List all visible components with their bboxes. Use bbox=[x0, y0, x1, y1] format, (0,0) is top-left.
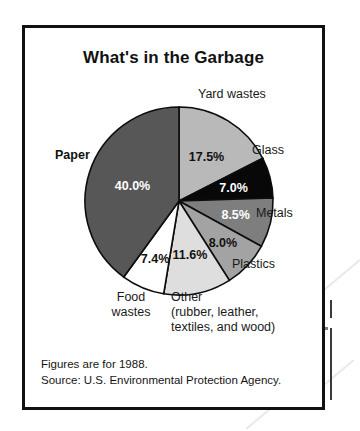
pie-label-food-wastes-line1: Food bbox=[104, 290, 158, 305]
pie-label-other-line1: Other bbox=[171, 290, 275, 305]
pie-label-other: Other (rubber, leather, textiles, and wo… bbox=[171, 290, 275, 335]
pie-label-glass: Glass bbox=[252, 143, 284, 158]
footnote-line: Figures are for 1988. bbox=[41, 356, 281, 372]
pie-label-food-wastes: Food wastes bbox=[104, 290, 158, 320]
pie-label-yard-wastes: Yard wastes bbox=[198, 87, 266, 102]
pie-slice-value: 7.4% bbox=[141, 252, 170, 266]
pie-slice-value: 40.0% bbox=[115, 179, 150, 193]
pie-label-plastics: Plastics bbox=[232, 257, 275, 272]
pie-slice-value: 8.0% bbox=[209, 236, 238, 250]
pie-slice-value: 7.0% bbox=[219, 181, 248, 195]
pie-slice-value: 17.5% bbox=[189, 150, 224, 164]
pie-label-metals: Metals bbox=[256, 206, 293, 221]
footnote-line: Source: U.S. Environmental Protection Ag… bbox=[41, 372, 281, 388]
figure-footnotes: Figures are for 1988. Source: U.S. Envir… bbox=[41, 356, 281, 388]
pie-label-food-wastes-line2: wastes bbox=[104, 305, 158, 320]
pie-label-other-line2: (rubber, leather, bbox=[171, 305, 275, 320]
pie-label-other-line3: textiles, and wood) bbox=[171, 320, 275, 335]
scan-artifact-edge-gap bbox=[330, 318, 332, 328]
pie-slice-value: 11.6% bbox=[173, 248, 208, 262]
figure-frame: What's in the Garbage 17.5%7.0%8.5%8.0%1… bbox=[22, 25, 325, 410]
pie-label-paper: Paper bbox=[55, 148, 90, 162]
scan-artifact-edge bbox=[330, 300, 332, 400]
pie-slice-value: 8.5% bbox=[221, 208, 250, 222]
